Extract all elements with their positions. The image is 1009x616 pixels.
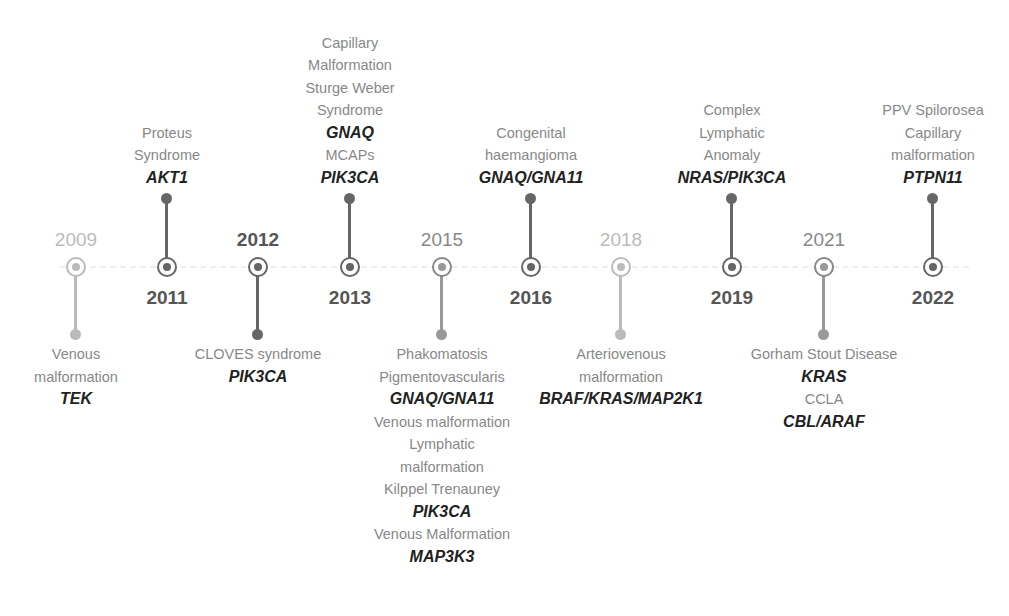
milestone-ring-icon [66,257,86,277]
gene-name: CBL/ARAF [714,411,934,434]
condition-name: malformation [511,366,731,389]
gene-name: KRAS [714,366,934,389]
milestone-ring-icon [340,257,360,277]
end-dot-icon [70,329,81,340]
event-description: ArteriovenousmalformationBRAF/KRAS/MAP2K… [511,343,731,411]
event-description: CongenitalhaemangiomaGNAQ/GNA11 [421,122,641,190]
condition-name: Capillary [240,32,460,55]
connector-line [619,267,622,335]
milestone-ring-icon [722,257,742,277]
condition-name: Gorham Stout Disease [714,343,934,366]
gene-name: PIK3CA [332,501,552,524]
gene-name: NRAS/PIK3CA [622,167,842,190]
condition-name: Lymphatic [332,433,552,456]
end-dot-icon [436,329,447,340]
year-label: 2022 [893,287,973,309]
event-description: Gorham Stout DiseaseKRASCCLACBL/ARAF [714,343,934,433]
condition-name: Complex [622,99,842,122]
connector-line [74,267,77,335]
connector-line [256,267,259,335]
condition-name: Congenital [421,122,641,145]
condition-name: Sturge Weber [240,77,460,100]
gene-name: PTPN11 [823,167,1009,190]
gene-name: TEK [0,388,186,411]
year-label: 2021 [784,229,864,251]
condition-name: PPV Spilorosea [823,99,1009,122]
condition-name: malformation [332,456,552,479]
end-dot-icon [252,329,263,340]
condition-name: Capillary [823,122,1009,145]
end-dot-icon [525,193,536,204]
condition-name: haemangioma [421,144,641,167]
year-label: 2018 [581,229,661,251]
condition-name: Kilppel Trenauney [332,478,552,501]
milestone-ring-icon [521,257,541,277]
end-dot-icon [818,329,829,340]
gene-name: MAP3K3 [332,546,552,569]
condition-name: Anomaly [622,144,842,167]
year-label: 2019 [692,287,772,309]
end-dot-icon [615,329,626,340]
condition-name: CCLA [714,388,934,411]
connector-line [440,267,443,335]
gene-name: BRAF/KRAS/MAP2K1 [511,388,731,411]
year-label: 2015 [402,229,482,251]
condition-name: Malformation [240,54,460,77]
end-dot-icon [161,193,172,204]
year-label: 2009 [36,229,116,251]
milestone-ring-icon [923,257,943,277]
connector-line [822,267,825,335]
event-description: PPV SpiloroseaCapillarymalformationPTPN1… [823,99,1009,189]
year-label: 2016 [491,287,571,309]
year-label: 2012 [218,229,298,251]
condition-name: Arteriovenous [511,343,731,366]
year-label: 2011 [127,287,207,309]
milestone-ring-icon [157,257,177,277]
condition-name: malformation [823,144,1009,167]
end-dot-icon [344,193,355,204]
condition-name: Lymphatic [622,122,842,145]
event-description: ComplexLymphaticAnomalyNRAS/PIK3CA [622,99,842,189]
condition-name: Venous malformation [332,411,552,434]
milestone-ring-icon [248,257,268,277]
end-dot-icon [927,193,938,204]
milestone-ring-icon [611,257,631,277]
gene-name: GNAQ/GNA11 [421,167,641,190]
condition-name: Venous Malformation [332,523,552,546]
condition-name: Syndrome [240,99,460,122]
milestone-ring-icon [432,257,452,277]
year-label: 2013 [310,287,390,309]
end-dot-icon [726,193,737,204]
milestone-ring-icon [814,257,834,277]
